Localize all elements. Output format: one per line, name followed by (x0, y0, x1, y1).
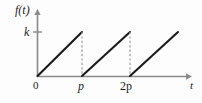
y-axis-label: f(t) (15, 4, 30, 16)
sawtooth-curve (38, 32, 179, 76)
plot-canvas (0, 0, 202, 103)
y-axis-arrow-icon (34, 9, 40, 15)
x-axis (37, 73, 192, 79)
y-tick-label-k: k (24, 26, 29, 38)
ramp-segment-1 (38, 32, 83, 76)
x-tick-label-origin: 0 (33, 80, 39, 91)
ramp-segment-3 (130, 32, 178, 76)
sawtooth-waveform-figure: f(t) k 0 p 2p t (0, 0, 202, 103)
x-tick-label-p: p (78, 80, 84, 92)
ramp-segment-2 (82, 32, 130, 76)
x-axis-label: t (190, 80, 193, 91)
x-tick-label-2p: 2p (120, 80, 132, 92)
y-axis (34, 9, 40, 77)
